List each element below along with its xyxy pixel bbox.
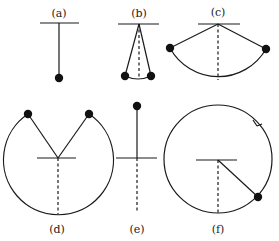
panel-label-c: (c) [211,6,226,19]
panel-label-f: (f) [212,223,225,236]
pendulum-bob-left [24,110,32,118]
pendulum-bob [55,74,63,82]
panel-label-e: (e) [129,223,144,236]
panel-b [118,24,159,80]
panel-c [166,24,270,80]
pendulum-bob-left [166,44,174,52]
pendulum-bob-right [147,72,155,80]
panel-d [3,110,113,215]
panel-e [116,102,157,212]
panel-label-b: (b) [131,7,147,20]
pendulum-bob-right [85,110,93,118]
pendulum-diagram: (a) (b) (c) (d) (e) (f) [0,0,279,241]
diagram-canvas: (a) (b) (c) (d) (e) (f) [0,0,279,241]
panel-a [40,23,79,82]
pendulum-bob [254,193,262,201]
pendulum-bob-right [262,45,270,53]
panel-label-d: (d) [49,223,65,236]
pendulum-bob [133,102,141,110]
panel-f [164,105,272,214]
pendulum-bob-left [121,72,129,80]
panel-label-a: (a) [51,7,66,20]
